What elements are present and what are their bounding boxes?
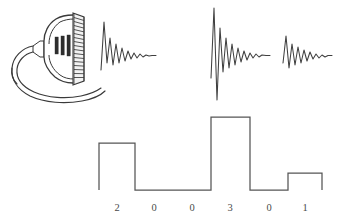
digit-label-2: 0 xyxy=(189,202,194,213)
probe-cable-tail xyxy=(12,68,17,84)
digit-label-1: 0 xyxy=(151,202,156,213)
digit-label-3: 3 xyxy=(227,202,232,213)
echo-waveform-1-trace xyxy=(101,22,156,70)
digitized-step-waveform xyxy=(99,117,322,190)
echo-waveform-1 xyxy=(101,22,156,70)
ultrasound-echo-figure: 2 0 0 3 0 1 xyxy=(0,0,337,222)
probe-grip-bar-2 xyxy=(61,36,64,55)
probe-grip-bar-1 xyxy=(55,37,58,54)
echo-waveform-2-trace xyxy=(211,8,270,100)
probe-strain-relief xyxy=(33,41,44,57)
echo-waveform-3 xyxy=(283,36,332,68)
digit-label-0: 2 xyxy=(114,202,119,213)
figure-canvas: 2 0 0 3 0 1 xyxy=(0,0,337,222)
probe-grip-bar-3 xyxy=(67,35,70,56)
digit-label-4: 0 xyxy=(266,202,271,213)
transducer-probe-group xyxy=(12,13,105,103)
echo-waveform-2 xyxy=(211,8,270,100)
step-waveform-trace xyxy=(99,117,322,190)
probe-body xyxy=(44,15,76,83)
digit-label-5: 1 xyxy=(302,202,307,213)
echo-waveform-3-trace xyxy=(283,36,332,68)
amplitude-digit-labels: 2 0 0 3 0 1 xyxy=(114,202,307,213)
